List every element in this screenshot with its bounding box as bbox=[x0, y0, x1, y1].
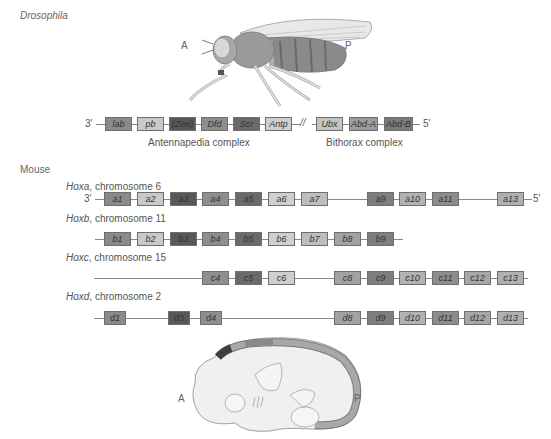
gene-c9: c9 bbox=[367, 271, 394, 285]
gene-scr: Scr bbox=[233, 117, 260, 131]
mouse-title: Mouse bbox=[20, 164, 50, 175]
drosophila-fly-illustration bbox=[170, 8, 380, 108]
hoxa-5prime-end: 5′ bbox=[533, 193, 540, 204]
gene-a11: a11 bbox=[432, 192, 459, 206]
antennapedia-complex-label: Antennapedia complex bbox=[148, 137, 250, 148]
gene-d9: d9 bbox=[367, 311, 394, 325]
hoxa-label: Hoxa, chromosome 6 bbox=[66, 181, 161, 192]
gene-lab: lab bbox=[105, 117, 132, 131]
drosophila-title: Drosophila bbox=[20, 10, 68, 21]
gene-a2: a2 bbox=[137, 192, 164, 206]
gene-d13: d13 bbox=[497, 311, 524, 325]
gene-b1: b1 bbox=[104, 232, 131, 246]
gene-antp: Antp bbox=[265, 117, 292, 131]
gene-c8: c8 bbox=[334, 271, 361, 285]
gene-c4: c4 bbox=[202, 271, 229, 285]
hoxd-label: Hoxd, chromosome 2 bbox=[66, 291, 161, 302]
gene-d3: d3 bbox=[168, 311, 190, 325]
gene-a7: a7 bbox=[301, 192, 328, 206]
gene-a13: a13 bbox=[497, 192, 524, 206]
hoxa-chromosome: , chromosome 6 bbox=[89, 181, 161, 192]
gene-c13: c13 bbox=[497, 271, 524, 285]
gene-pb: pb bbox=[137, 117, 164, 131]
gene-b6: b6 bbox=[268, 232, 295, 246]
hoxa-name: Hoxa bbox=[66, 181, 89, 192]
gene-c6: c6 bbox=[268, 271, 295, 285]
gene-b5: b5 bbox=[235, 232, 262, 246]
gene-ubx: Ubx bbox=[316, 117, 343, 131]
gene-dfd: Dfd bbox=[201, 117, 228, 131]
gene-a5: a5 bbox=[235, 192, 262, 206]
gene-b4: b4 bbox=[202, 232, 229, 246]
gene-c11: c11 bbox=[432, 271, 459, 285]
gene-d1: d1 bbox=[104, 311, 126, 325]
gene-b9: b9 bbox=[367, 232, 394, 246]
gene-d8: d8 bbox=[334, 311, 361, 325]
gene-abd-b: Abd-B bbox=[384, 117, 413, 131]
hoxc-chromosome: , chromosome 15 bbox=[89, 252, 166, 263]
gene-b8: b8 bbox=[334, 232, 361, 246]
hoxb-name: Hoxb bbox=[66, 213, 89, 224]
gene-d10: d10 bbox=[399, 311, 426, 325]
gene-b7: b7 bbox=[301, 232, 328, 246]
hoxb-chromosome: , chromosome 11 bbox=[89, 213, 166, 224]
gene-c5: c5 bbox=[235, 271, 262, 285]
bithorax-complex-label: Bithorax complex bbox=[326, 137, 403, 148]
hoxc-label: Hoxc, chromosome 15 bbox=[66, 252, 166, 263]
gene-d11: d11 bbox=[432, 311, 459, 325]
gene-d12: d12 bbox=[464, 311, 491, 325]
gene-a6: a6 bbox=[268, 192, 295, 206]
hoxa-3prime-end: 3′ bbox=[84, 193, 91, 204]
mouse-posterior-label: P bbox=[354, 393, 361, 404]
hoxc-chromosome-line bbox=[94, 278, 528, 279]
chromosome-break-mark: // bbox=[300, 117, 306, 128]
gene-a1: a1 bbox=[104, 192, 131, 206]
gene-c10: c10 bbox=[399, 271, 426, 285]
drosophila-5prime-end: 5′ bbox=[423, 118, 430, 129]
gene-a3: a3 bbox=[170, 192, 197, 206]
gene-b2: b2 bbox=[137, 232, 164, 246]
gene-d4: d4 bbox=[200, 311, 222, 325]
hoxd-chromosome-line bbox=[94, 318, 528, 319]
drosophila-posterior-label: P bbox=[345, 40, 352, 51]
hoxb-label: Hoxb, chromosome 11 bbox=[66, 213, 166, 224]
gene-c12: c12 bbox=[464, 271, 491, 285]
mouse-anterior-label: A bbox=[178, 393, 185, 404]
gene-b3: b3 bbox=[170, 232, 197, 246]
gene-a10: a10 bbox=[399, 192, 426, 206]
hoxc-name: Hoxc bbox=[66, 252, 89, 263]
hoxd-chromosome: , chromosome 2 bbox=[89, 291, 161, 302]
hoxd-name: Hoxd bbox=[66, 291, 89, 302]
gene-a4: a4 bbox=[202, 192, 229, 206]
gene-a9: a9 bbox=[367, 192, 394, 206]
mouse-embryo-illustration bbox=[185, 335, 375, 435]
drosophila-anterior-label: A bbox=[181, 40, 188, 51]
gene-abd-a: Abd-A bbox=[349, 117, 378, 131]
drosophila-3prime-end: 3′ bbox=[85, 118, 92, 129]
gene-zen: (Zen) bbox=[169, 117, 196, 131]
